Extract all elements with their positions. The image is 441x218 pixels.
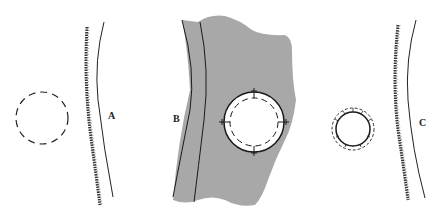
panel-b (173, 16, 296, 206)
label-b: B (173, 113, 180, 124)
solid-ring-c (336, 112, 370, 146)
outer-line-c (407, 20, 425, 198)
wall-inner-line-c (397, 25, 410, 200)
diagram-canvas: A B (0, 0, 441, 218)
dashed-circle-a (16, 92, 68, 144)
panel-a (16, 22, 113, 205)
label-c: C (419, 117, 426, 128)
label-a: A (108, 110, 116, 121)
panel-c (332, 20, 425, 200)
serrated-wall-c (395, 25, 408, 200)
ring-outer-b (224, 92, 284, 152)
